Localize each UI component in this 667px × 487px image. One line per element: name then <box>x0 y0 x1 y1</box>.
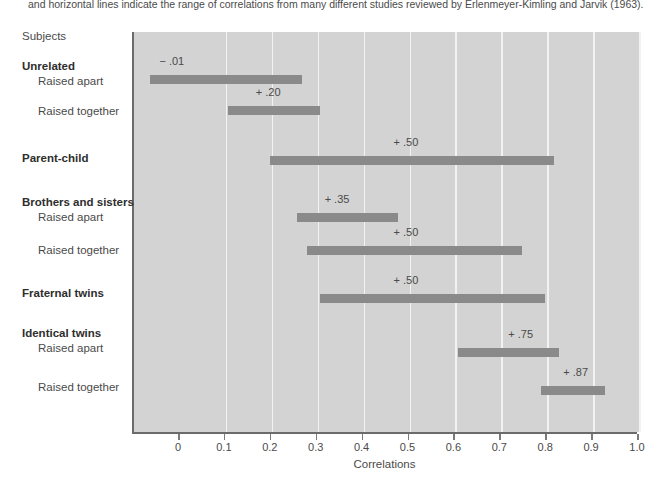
row-label-8: Fraternal twins <box>22 287 104 299</box>
tick-label-0.1: 0.1 <box>204 441 244 453</box>
gridline <box>318 32 320 432</box>
tick-label-0.9: 0.9 <box>571 441 611 453</box>
bar-identical-twins-raised-apart <box>458 348 559 357</box>
gridline <box>226 32 228 432</box>
tick-mark <box>591 434 593 440</box>
tick-mark <box>499 434 501 440</box>
bar-fraternal-twins <box>320 294 545 303</box>
value-label-siblings-raised-apart: + .35 <box>325 193 350 205</box>
row-label-6: Raised apart <box>38 211 103 223</box>
row-label-3: Raised together <box>38 105 119 117</box>
bar-identical-twins-raised-together <box>541 386 605 395</box>
row-label-0: Subjects <box>22 30 66 42</box>
tick-label-0: 0 <box>158 441 198 453</box>
tick-label-0.8: 0.8 <box>525 441 565 453</box>
tick-mark <box>316 434 318 440</box>
row-label-9: Identical twins <box>22 327 101 339</box>
bar-siblings-raised-apart <box>297 213 398 222</box>
tick-label-1.0: 1.0 <box>617 441 657 453</box>
tick-label-0.7: 0.7 <box>479 441 519 453</box>
bar-unrelated-raised-together <box>228 106 320 115</box>
x-axis-line <box>132 432 637 434</box>
gridline <box>364 32 366 432</box>
tick-mark <box>362 434 364 440</box>
correlation-range-chart: − .01+ .20+ .50+ .35+ .50+ .50+ .75+ .87… <box>0 0 667 487</box>
tick-label-0.6: 0.6 <box>433 441 473 453</box>
gridline <box>547 32 549 432</box>
gridline <box>501 32 503 432</box>
row-label-7: Raised together <box>38 244 119 256</box>
tick-mark <box>270 434 272 440</box>
value-label-identical-twins-raised-apart: + .75 <box>508 328 533 340</box>
gridline <box>593 32 595 432</box>
value-label-unrelated-raised-apart: − .01 <box>159 55 184 67</box>
tick-mark <box>224 434 226 440</box>
tick-label-0.3: 0.3 <box>296 441 336 453</box>
value-label-parent-child: + .50 <box>394 136 419 148</box>
bar-parent-child <box>270 156 555 165</box>
tick-mark <box>178 434 180 440</box>
value-label-siblings-raised-together: + .50 <box>394 226 419 238</box>
tick-label-0.2: 0.2 <box>250 441 290 453</box>
tick-mark <box>545 434 547 440</box>
row-label-10: Raised apart <box>38 342 103 354</box>
tick-mark <box>637 434 639 440</box>
tick-label-0.4: 0.4 <box>342 441 382 453</box>
tick-mark <box>408 434 410 440</box>
tick-label-0.5: 0.5 <box>388 441 428 453</box>
value-label-fraternal-twins: + .50 <box>394 274 419 286</box>
bar-siblings-raised-together <box>307 246 523 255</box>
row-label-4: Parent-child <box>22 152 88 164</box>
tick-mark <box>453 434 455 440</box>
row-label-11: Raised together <box>38 381 119 393</box>
bar-unrelated-raised-apart <box>150 75 301 84</box>
gridline <box>639 32 641 432</box>
row-label-2: Raised apart <box>38 75 103 87</box>
gridline <box>455 32 457 432</box>
value-label-unrelated-raised-together: + .20 <box>256 86 281 98</box>
x-axis-title: Correlations <box>132 458 637 470</box>
row-label-5: Brothers and sisters <box>22 196 134 208</box>
row-label-1: Unrelated <box>22 60 75 72</box>
value-label-identical-twins-raised-together: + .87 <box>563 366 588 378</box>
